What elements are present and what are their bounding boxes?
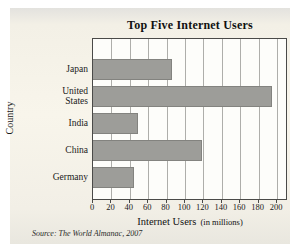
- x-axis-label-text: Internet Users: [137, 216, 196, 227]
- category-label-united-states: United States: [40, 85, 88, 106]
- x-tick-mark-0: [92, 200, 93, 203]
- x-tick-mark-60: [147, 200, 148, 203]
- category-label-india: India: [40, 117, 88, 128]
- chart-title: Top Five Internet Users: [92, 18, 288, 33]
- x-axis-label: Internet Users (in millions): [92, 211, 288, 229]
- bar-china: [93, 140, 202, 161]
- x-axis-label-unit: (in millions): [200, 217, 242, 227]
- chart-panel: Top Five Internet Users JapanUnited Stat…: [10, 8, 290, 244]
- x-tick-mark-140: [221, 200, 222, 203]
- bar-japan: [93, 59, 172, 80]
- x-tick-mark-100: [184, 200, 185, 203]
- gridline-160: [240, 39, 241, 199]
- x-tick-mark-80: [166, 200, 167, 203]
- x-tick-mark-40: [129, 200, 130, 203]
- x-tick-mark-160: [239, 200, 240, 203]
- gridline-140: [222, 39, 223, 199]
- figure: Top Five Internet Users JapanUnited Stat…: [0, 0, 298, 251]
- y-axis-label: Country: [4, 88, 18, 148]
- x-tick-mark-120: [202, 200, 203, 203]
- x-tick-mark-180: [258, 200, 259, 203]
- plot-area: [92, 38, 287, 200]
- bar-united-states: [93, 86, 272, 107]
- category-axis: JapanUnited StatesIndiaChinaGermany: [40, 38, 88, 200]
- gridline-200: [277, 39, 278, 199]
- bar-germany: [93, 167, 134, 188]
- category-label-japan: Japan: [40, 63, 88, 74]
- source-note: Source: The World Almanac, 2007: [32, 229, 142, 238]
- category-label-china: China: [40, 144, 88, 155]
- gridline-180: [259, 39, 260, 199]
- bar-india: [93, 113, 138, 134]
- category-label-germany: Germany: [40, 171, 88, 182]
- gridline-120: [203, 39, 204, 199]
- gridline-100: [185, 39, 186, 199]
- x-tick-mark-20: [110, 200, 111, 203]
- x-tick-mark-200: [276, 200, 277, 203]
